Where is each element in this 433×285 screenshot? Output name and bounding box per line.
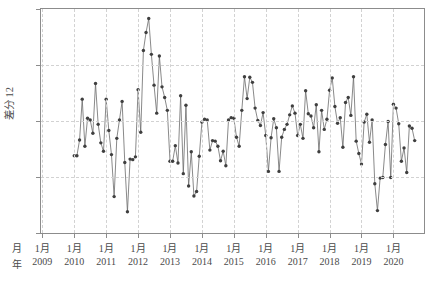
x-axis-tick-mark xyxy=(202,234,203,238)
x-axis-month-label: 1月 xyxy=(35,240,50,255)
gridline-vertical xyxy=(202,9,203,233)
x-axis-month-label: 1月 xyxy=(226,240,241,255)
gridline-vertical xyxy=(170,9,171,233)
gridlines xyxy=(41,9,424,233)
gridline-vertical xyxy=(234,9,235,233)
gridline-horizontal xyxy=(41,121,424,122)
x-axis-year-row-header: 年 xyxy=(12,256,22,271)
gridline-horizontal xyxy=(41,177,424,178)
x-axis-year-label: 2010 xyxy=(64,256,84,267)
gridline-vertical xyxy=(42,9,43,233)
x-axis-tick-mark xyxy=(170,234,171,238)
x-axis-month-label: 1月 xyxy=(258,240,273,255)
y-axis-title: 差分 12 xyxy=(1,74,16,134)
chart-figure: 差分 12 -20-1001020 1月20091月20101月20111月20… xyxy=(0,0,433,285)
gridline-vertical xyxy=(330,9,331,233)
x-axis-month-label: 1月 xyxy=(67,240,82,255)
x-axis-month-label: 1月 xyxy=(99,240,114,255)
x-axis-year-label: 2009 xyxy=(32,256,52,267)
x-axis-tick-mark xyxy=(74,234,75,238)
x-axis-tick-mark xyxy=(361,234,362,238)
x-axis-month-label: 1月 xyxy=(354,240,369,255)
x-axis-tick-mark xyxy=(138,234,139,238)
x-axis-month-label: 1月 xyxy=(131,240,146,255)
x-axis-tick-mark xyxy=(298,234,299,238)
gridline-vertical xyxy=(106,9,107,233)
gridline-vertical xyxy=(74,9,75,233)
x-axis-month-label: 1月 xyxy=(386,240,401,255)
x-axis-month-label: 1月 xyxy=(194,240,209,255)
plot-area xyxy=(40,8,425,234)
x-axis-tick-mark xyxy=(393,234,394,238)
x-axis-year-label: 2014 xyxy=(192,256,212,267)
x-axis-year-label: 2015 xyxy=(224,256,244,267)
gridline-vertical xyxy=(266,9,267,233)
gridline-vertical xyxy=(393,9,394,233)
x-axis-year-label: 2020 xyxy=(383,256,403,267)
x-axis-month-row-header: 月 xyxy=(12,240,22,255)
x-axis-year-label: 2016 xyxy=(256,256,276,267)
x-axis-year-label: 2013 xyxy=(160,256,180,267)
x-axis-month-label: 1月 xyxy=(162,240,177,255)
x-axis-tick-mark xyxy=(330,234,331,238)
x-axis-tick-mark xyxy=(266,234,267,238)
x-axis-year-label: 2018 xyxy=(320,256,340,267)
x-axis-year-label: 2019 xyxy=(351,256,371,267)
gridline-vertical xyxy=(138,9,139,233)
x-axis-year-label: 2017 xyxy=(288,256,308,267)
x-axis-month-label: 1月 xyxy=(290,240,305,255)
gridline-vertical xyxy=(298,9,299,233)
x-axis-year-label: 2011 xyxy=(96,256,116,267)
gridline-horizontal xyxy=(41,65,424,66)
x-axis-year-label: 2012 xyxy=(128,256,148,267)
x-axis-tick-mark xyxy=(106,234,107,238)
gridline-vertical xyxy=(361,9,362,233)
x-axis-tick-mark xyxy=(234,234,235,238)
x-axis-tick-mark xyxy=(42,234,43,238)
x-axis-month-label: 1月 xyxy=(322,240,337,255)
